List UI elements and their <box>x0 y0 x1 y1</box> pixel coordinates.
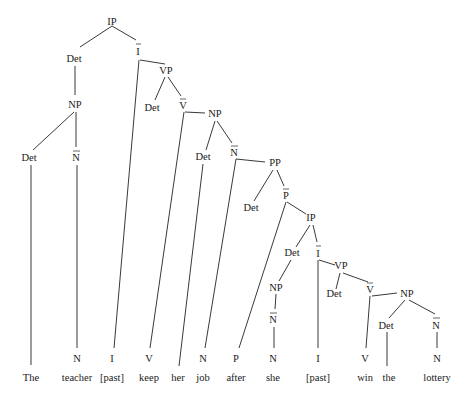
cat-keep: V <box>145 353 153 364</box>
node-det-the-lottery: Det <box>378 320 393 331</box>
tree-edges <box>31 26 437 366</box>
node-np-lottery: NP <box>400 288 414 299</box>
tree-nodes: IP Det I NP Det N VP Det V NP Det N PP D… <box>21 16 440 331</box>
node-vp-embedded: VP <box>334 260 348 271</box>
node-det-vp-embedded: Det <box>326 288 341 299</box>
word-win: win <box>357 372 374 383</box>
node-pbar-after: P <box>283 189 289 201</box>
word-after: after <box>226 372 246 383</box>
node-det-pp: Det <box>243 202 258 213</box>
node-nbar-teacher: N <box>72 151 80 163</box>
node-np-object: NP <box>208 108 222 119</box>
node-ip-embedded: IP <box>306 212 315 223</box>
node-ibar-embedded: I <box>316 246 321 259</box>
word-past-1: [past] <box>100 372 124 383</box>
svg-text:N: N <box>269 314 277 325</box>
cat-teacher: N <box>73 353 81 364</box>
word-lottery: lottery <box>423 372 451 383</box>
tree-svg: IP Det I NP Det N VP Det V NP Det N PP D… <box>0 0 467 401</box>
node-det-vp-main: Det <box>144 102 159 113</box>
node-det-embedded-subject: Det <box>284 247 299 258</box>
word-past-2: [past] <box>306 372 330 383</box>
node-pp: PP <box>269 157 281 168</box>
word-teacher: teacher <box>62 372 93 383</box>
node-det-the: Det <box>21 152 36 163</box>
node-nbar-she: N <box>269 313 277 325</box>
cat-job: N <box>199 353 207 364</box>
svg-text:N: N <box>72 152 80 163</box>
word-job: job <box>195 372 209 383</box>
cat-past-1: I <box>110 353 114 364</box>
word-her: her <box>171 372 185 383</box>
sentence-words: The teacher [past] keep her job after sh… <box>23 372 452 383</box>
node-vbar-win: V <box>366 283 374 295</box>
node-np-she: NP <box>269 282 283 293</box>
node-nbar-job: N <box>230 146 238 158</box>
syntax-tree-diagram: IP Det I NP Det N VP Det V NP Det N PP D… <box>0 0 467 401</box>
svg-text:P: P <box>283 190 289 201</box>
cat-she: N <box>269 353 277 364</box>
cat-past-2: I <box>316 353 320 364</box>
node-vp-main: VP <box>159 65 173 76</box>
node-det-subject: Det <box>66 53 81 64</box>
svg-text:V: V <box>179 100 187 111</box>
svg-text:V: V <box>366 284 374 295</box>
word-she: she <box>266 372 280 383</box>
cat-after: P <box>233 353 239 364</box>
cat-lottery: N <box>433 353 441 364</box>
svg-text:I: I <box>316 248 320 259</box>
word-the-2: the <box>383 372 396 383</box>
node-ip-root: IP <box>107 16 116 27</box>
word-keep: keep <box>139 372 159 383</box>
cat-win: V <box>361 353 369 364</box>
node-det-her: Det <box>195 151 210 162</box>
terminal-categories: N I V N P N I V N <box>73 353 441 364</box>
node-ibar-main: I <box>136 44 141 57</box>
svg-text:I: I <box>136 46 140 57</box>
node-nbar-lottery: N <box>432 318 440 331</box>
svg-text:N: N <box>230 147 238 158</box>
svg-text:N: N <box>432 320 440 331</box>
node-np-subject: NP <box>68 99 82 110</box>
node-vbar-keep: V <box>179 99 187 111</box>
word-the-1: The <box>23 372 40 383</box>
